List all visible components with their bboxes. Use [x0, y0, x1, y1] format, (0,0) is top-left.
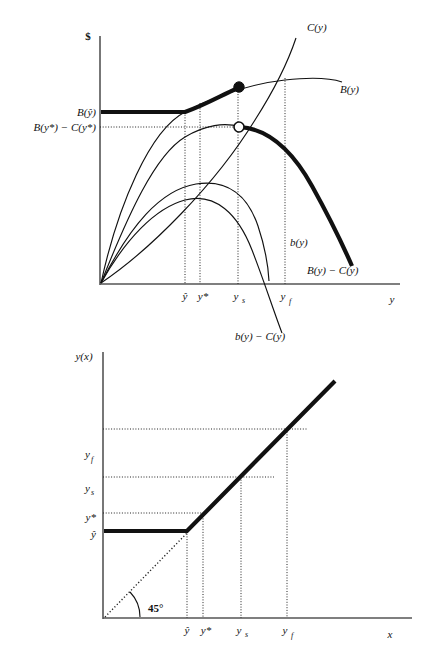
bottom-panel: y(x) x 45° y f y s y* ŷ ŷ y*	[74, 350, 412, 640]
top-panel-xtick-ys: y s	[233, 290, 246, 305]
bottom-panel-xtick-ys: y s	[236, 624, 249, 639]
label-b-of-y: b(y)	[290, 236, 308, 249]
svg-text:y: y	[233, 290, 239, 302]
bottom-panel-ytick-yf: y f	[84, 448, 95, 464]
bottom-panel-y-axis-label: y(x)	[74, 350, 92, 363]
label-b-minus-C: b(y) − C(y)	[235, 330, 286, 343]
top-panel-xtick-yf: y f	[280, 290, 293, 306]
svg-text:y: y	[84, 482, 90, 494]
svg-text:y: y	[236, 624, 242, 636]
svg-text:f: f	[91, 455, 95, 464]
bottom-panel-45-degree-ray	[105, 532, 188, 617]
curve-bold-B-schedule	[101, 88, 238, 112]
bottom-panel-xtick-yhat: ŷ	[184, 624, 190, 636]
svg-text:y: y	[282, 624, 288, 636]
bottom-panel-xtick-ystar: y*	[200, 624, 212, 636]
figure-svg: $ y B(ŷ) B(y*) − C(y*) ŷ y*	[0, 0, 431, 650]
label-B-of-y: B(y)	[340, 83, 359, 96]
svg-text:s: s	[245, 630, 248, 639]
bottom-panel-ytick-ystar: y*	[85, 511, 97, 523]
bottom-panel-ytick-ys: y s	[84, 482, 94, 497]
svg-text:f: f	[291, 631, 295, 640]
top-panel-ytick-B-yhat: B(ŷ)	[77, 106, 96, 119]
svg-text:f: f	[289, 297, 293, 306]
bottom-panel-xtick-yf: y f	[282, 624, 295, 640]
top-panel-y-axis-label: $	[85, 30, 91, 42]
top-panel-open-marker	[234, 122, 244, 132]
figure-container: $ y B(ŷ) B(y*) − C(y*) ŷ y*	[0, 0, 431, 650]
curve-B-of-y	[101, 78, 342, 283]
top-panel: $ y B(ŷ) B(y*) − C(y*) ŷ y*	[34, 21, 400, 343]
curve-B-minus-C-thin	[101, 125, 240, 283]
top-panel-x-axis-label: y	[389, 293, 395, 305]
top-panel-ytick-B-minus-C: B(y*) − C(y*)	[34, 121, 97, 134]
svg-text:s: s	[91, 488, 94, 497]
svg-text:y: y	[280, 290, 286, 302]
svg-text:y: y	[84, 448, 90, 460]
label-C-of-y: C(y)	[307, 21, 327, 34]
bottom-panel-angle-arc	[130, 592, 140, 617]
bottom-panel-angle-label: 45°	[148, 602, 163, 614]
curve-C-of-y	[101, 38, 296, 283]
top-panel-filled-marker	[234, 82, 244, 92]
label-B-minus-C: B(y) − C(y)	[307, 264, 359, 277]
top-panel-xtick-ystar: y*	[197, 290, 209, 302]
top-panel-xtick-yhat: ŷ	[182, 290, 188, 302]
bottom-panel-ytick-yhat: ŷ	[90, 528, 96, 540]
svg-text:s: s	[242, 296, 245, 305]
bottom-panel-x-axis-label: x	[387, 628, 393, 640]
curve-y-of-x	[104, 381, 335, 531]
